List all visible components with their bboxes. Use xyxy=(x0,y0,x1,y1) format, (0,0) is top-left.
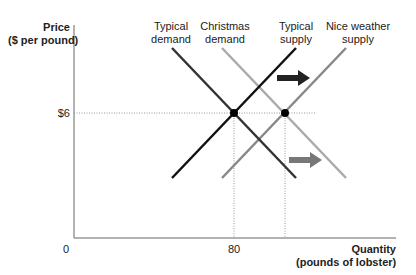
y-tick-6: $6 xyxy=(40,107,70,120)
demand-shift-arrow-icon xyxy=(289,152,322,168)
y-axis-title: Price ($ per pound) xyxy=(8,21,70,47)
nice-weather-supply-label: Nice weathersupply xyxy=(318,20,398,46)
equilibrium-point-typical xyxy=(230,109,238,117)
christmas-demand-label: Christmasdemand xyxy=(195,20,255,46)
supply-shift-arrow-icon xyxy=(277,70,310,86)
x-axis-title: Quantity (pounds of lobster) xyxy=(296,243,396,269)
typical-supply-label: Typicalsupply xyxy=(274,20,318,46)
x-tick-80: 80 xyxy=(224,243,244,256)
typical-demand-label: Typicaldemand xyxy=(146,20,196,46)
equilibrium-point-new xyxy=(281,109,289,117)
origin-label: 0 xyxy=(60,243,72,256)
